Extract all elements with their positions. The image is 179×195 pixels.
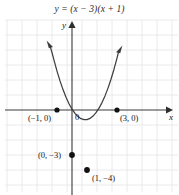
point-root-left (54, 107, 59, 112)
point-label-root-right: (3, 0) (120, 113, 138, 123)
graph-svg (0, 0, 179, 195)
origin-label: 0 (75, 112, 79, 122)
y-axis-label: y (62, 20, 66, 30)
grid-lines (5, 20, 178, 192)
point-y-intercept (69, 152, 75, 158)
point-label-y-intercept: (0, −3) (38, 150, 61, 160)
point-vertex (84, 167, 90, 173)
point-root-right (114, 107, 119, 112)
figure-canvas: y = (x − 3)(x + 1) (0, 0, 179, 195)
x-axis-label: x (169, 112, 173, 122)
point-label-vertex: (1, −4) (92, 173, 115, 183)
point-label-root-left: (−1, 0) (28, 113, 51, 123)
